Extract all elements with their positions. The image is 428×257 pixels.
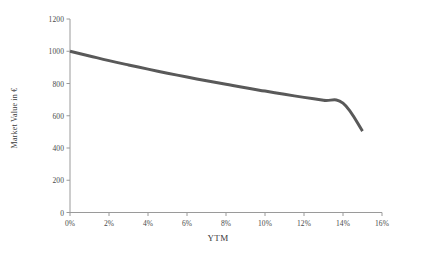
y-axis-ticks — [67, 19, 71, 213]
y-axis-tick-label: 600 — [52, 111, 64, 120]
y-axis-tick-label: 1200 — [49, 15, 64, 24]
x-axis-tick-label: 2% — [104, 219, 114, 228]
y-axis-tick-label: 0 — [60, 208, 64, 217]
y-axis-title: Market Value in € — [10, 88, 19, 149]
x-axis-tick-label: 4% — [143, 219, 153, 228]
y-axis-tick-label: 1000 — [49, 47, 64, 56]
x-axis-tick-label: 16% — [375, 219, 389, 228]
y-axis-tick-label: 800 — [52, 79, 64, 88]
y-axis-tick-label: 200 — [52, 176, 64, 185]
x-axis-tick-label: 0% — [65, 219, 75, 228]
x-axis-tick-label: 12% — [297, 219, 311, 228]
x-axis-title: YTM — [207, 233, 228, 243]
chart-container: 020040060080010001200 0%2%4%6%8%10%12%14… — [0, 0, 428, 257]
x-axis-tick-label: 10% — [258, 219, 272, 228]
data-series-line — [70, 51, 363, 131]
chart-axes — [70, 19, 382, 213]
x-axis-tick-label: 14% — [336, 219, 350, 228]
x-axis-tick-label: 8% — [221, 219, 231, 228]
x-axis-tick-label: 6% — [182, 219, 192, 228]
x-axis-ticks — [70, 213, 382, 217]
y-axis-tick-label: 400 — [52, 144, 64, 153]
